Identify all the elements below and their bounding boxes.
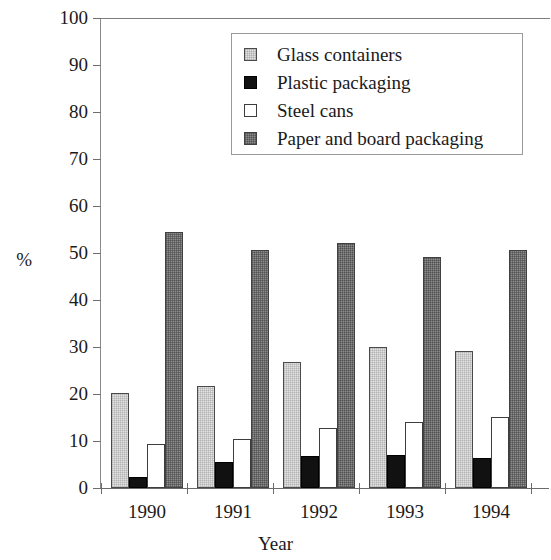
y-tick-label: 80: [36, 102, 88, 121]
x-category-label: 1991: [188, 501, 278, 523]
y-tick-label: 10: [36, 431, 88, 450]
y-tick-label: 90: [36, 55, 88, 74]
legend-swatch-icon: [244, 48, 257, 61]
x-axis-line: [100, 488, 549, 489]
bar: [147, 444, 165, 488]
bar: [283, 362, 301, 488]
legend-item: Plastic packaging: [244, 68, 411, 96]
legend-item-label: Paper and board packaging: [277, 128, 483, 149]
x-tick-mark: [359, 483, 360, 494]
legend-item-label: Steel cans: [277, 100, 354, 121]
x-category-label: 1993: [360, 501, 450, 523]
legend-swatch-icon: [244, 76, 257, 89]
legend-item: Paper and board packaging: [244, 124, 483, 152]
x-tick-mark: [187, 483, 188, 494]
y-tick-label: 20: [36, 384, 88, 403]
x-axis-title: Year: [0, 533, 551, 555]
bar: [197, 386, 215, 488]
legend-swatch-icon: [244, 132, 257, 145]
bar: [491, 417, 509, 488]
x-tick-mark: [273, 483, 274, 494]
x-category-label: 1990: [102, 501, 192, 523]
bar: [129, 477, 147, 488]
bar: [233, 439, 251, 488]
y-tick-label: 30: [36, 337, 88, 356]
bar: [405, 422, 423, 488]
bar-chart: % 0102030405060708090100 199019911992199…: [0, 0, 551, 560]
legend-item: Steel cans: [244, 96, 354, 124]
y-tick-label: 0: [36, 478, 88, 497]
bar: [369, 347, 387, 488]
bar: [319, 428, 337, 488]
legend-item-label: Glass containers: [277, 44, 402, 65]
bar: [473, 458, 491, 488]
legend-item-label: Plastic packaging: [277, 72, 411, 93]
bar: [165, 232, 183, 488]
legend-swatch-icon: [244, 104, 257, 117]
bar: [423, 257, 441, 488]
chart-legend: Glass containersPlastic packagingSteel c…: [231, 33, 523, 155]
bar: [387, 455, 405, 488]
x-tick-mark: [445, 483, 446, 494]
legend-item: Glass containers: [244, 40, 402, 68]
x-category-label: 1994: [446, 501, 536, 523]
bar: [301, 456, 319, 488]
bar: [509, 250, 527, 488]
y-tick-label: 40: [36, 290, 88, 309]
y-tick-label: 60: [36, 196, 88, 215]
x-tick-mark: [531, 483, 532, 494]
y-tick-label: 50: [36, 243, 88, 262]
x-category-label: 1992: [274, 501, 364, 523]
bar: [111, 393, 129, 488]
y-tick-mark: [93, 488, 101, 489]
x-tick-mark: [101, 483, 102, 494]
y-tick-label: 100: [36, 8, 88, 27]
bar: [337, 243, 355, 488]
bar: [215, 462, 233, 488]
y-tick-label: 70: [36, 149, 88, 168]
y-axis-unit-label: %: [2, 250, 32, 269]
bar: [455, 351, 473, 488]
bar: [251, 250, 269, 488]
